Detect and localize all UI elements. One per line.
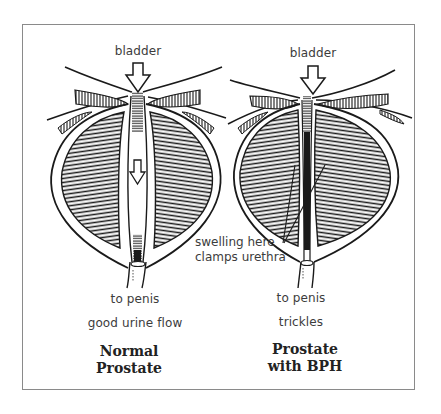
normal-to-penis-label: to penis bbox=[111, 292, 160, 306]
normal-prostate-title: Normal Prostate bbox=[96, 343, 162, 377]
annotation-line1: swelling here bbox=[195, 235, 286, 250]
normal-bladder-label: bladder bbox=[115, 44, 162, 58]
bph-bladder-label: bladder bbox=[290, 46, 337, 60]
normal-title-line2: Prostate bbox=[96, 360, 162, 377]
bph-title-line1: Prostate bbox=[268, 341, 342, 358]
bph-to-penis-label: to penis bbox=[277, 291, 326, 305]
annotation-line2: clamps urethra bbox=[195, 250, 286, 265]
normal-title-line1: Normal bbox=[96, 343, 162, 360]
bph-flow-label: trickles bbox=[279, 315, 323, 329]
bph-title-line2: with BPH bbox=[268, 358, 342, 375]
swelling-annotation: swelling here clamps urethra bbox=[195, 235, 286, 265]
bph-prostate-title: Prostate with BPH bbox=[268, 341, 342, 375]
normal-flow-label: good urine flow bbox=[88, 316, 183, 330]
prostate-illustration bbox=[0, 0, 441, 414]
